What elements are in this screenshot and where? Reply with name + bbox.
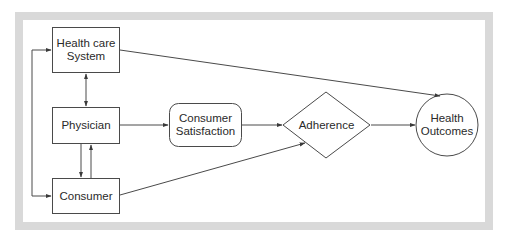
edge-left-loop [32, 50, 51, 196]
flow-diagram [0, 0, 509, 239]
node-consumer [53, 179, 120, 214]
node-health-outcomes [416, 94, 478, 156]
edge-healthcare-to-outcomes [120, 50, 440, 96]
node-consumer-satisfaction [170, 104, 242, 147]
node-adherence [283, 92, 370, 158]
edge-consumer-to-adherence [120, 143, 305, 195]
node-physician [53, 108, 120, 144]
node-health-care-system [53, 28, 120, 73]
